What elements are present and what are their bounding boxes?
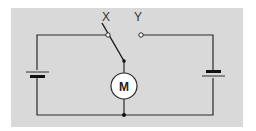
motor-label: M (119, 80, 129, 94)
switch-pivot-icon (122, 59, 126, 63)
motor-icon: M (111, 73, 137, 99)
circuit-diagram: X Y M (0, 0, 256, 131)
terminal-x-icon (106, 33, 110, 37)
terminal-y-icon (139, 33, 143, 37)
junction-dot-icon (122, 113, 126, 117)
label-y: Y (134, 10, 142, 24)
background-panel (11, 8, 243, 127)
label-x: X (102, 10, 110, 24)
